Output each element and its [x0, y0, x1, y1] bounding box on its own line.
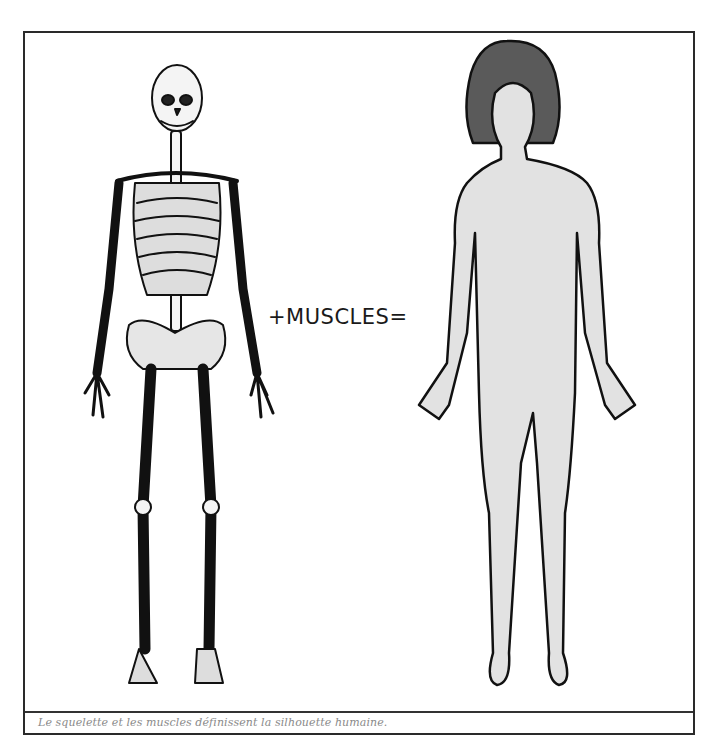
silhouette-illustration: [25, 33, 693, 711]
equation-label: +MUSCLES=: [268, 305, 407, 329]
caption-divider: [25, 711, 693, 713]
illustration-area: +MUSCLES=: [25, 33, 693, 711]
figure-caption: Le squelette et les muscles définissent …: [38, 716, 387, 729]
figure-frame: +MUSCLES= Le squelette et les muscles dé…: [23, 31, 695, 735]
